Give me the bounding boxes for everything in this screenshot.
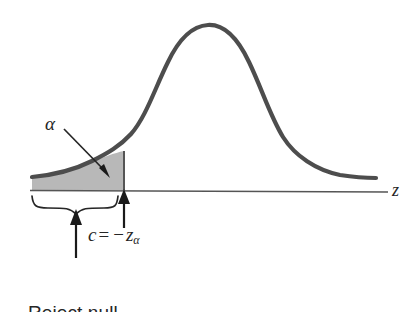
z-axis [30, 191, 388, 193]
critical-value-equals: = [96, 224, 111, 245]
reject-region-arrow [70, 209, 82, 258]
rejection-region-brace [32, 196, 118, 214]
critical-value-arrow [118, 189, 130, 228]
normal-curve [32, 25, 376, 178]
statistics-figure: α z c=−zα Reject null hypothesis [0, 0, 419, 312]
critical-value-label: c=−zα [88, 224, 140, 247]
rejection-region-shading [32, 151, 124, 190]
reject-region-label-line1: Reject null [28, 302, 120, 312]
reject-region-label: Reject null hypothesis [28, 259, 120, 312]
z-axis-label: z [392, 180, 399, 200]
alpha-label: α [45, 113, 55, 134]
critical-value-alpha-subscript: α [133, 233, 139, 247]
critical-value-minus-sign: − [111, 224, 126, 245]
